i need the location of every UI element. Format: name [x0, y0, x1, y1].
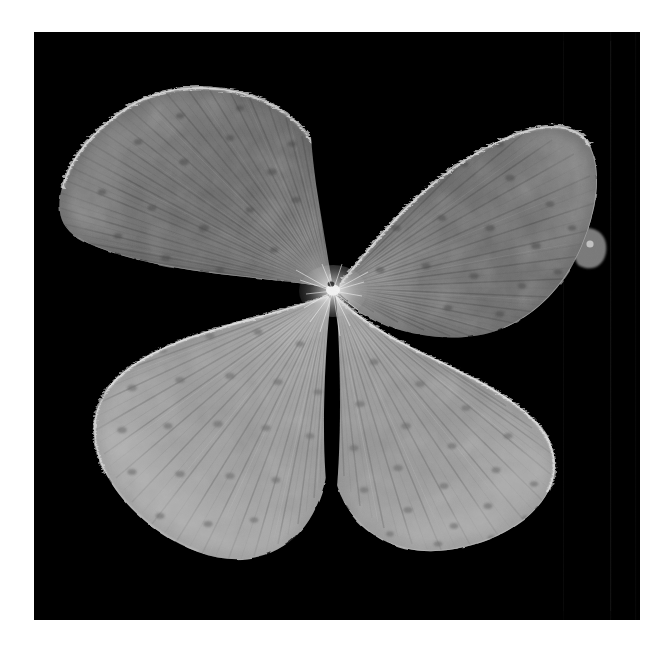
- page-canvas: [0, 0, 667, 671]
- film-grain-overlay: [34, 32, 640, 620]
- clover-leaf: [34, 32, 640, 620]
- photograph: [34, 32, 640, 620]
- clover-leaf-image: [34, 32, 640, 620]
